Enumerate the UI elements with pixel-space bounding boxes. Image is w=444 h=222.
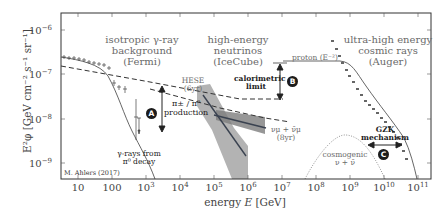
pi0-decay-label: γ-rays fromπ⁰ decay	[114, 150, 164, 167]
x-tick-label: 106	[239, 181, 256, 193]
y-tick-label: 10−9	[29, 157, 52, 169]
x-axis-label: energy E [GeV]	[180, 196, 310, 208]
badge-c: C	[378, 149, 389, 160]
production-label: π± / π⁰production	[164, 100, 208, 118]
x-tick-label: 109	[341, 181, 358, 193]
auger-region-label: ultra-high energycosmic rays(Auger)	[338, 34, 438, 68]
x-tick-label: 107	[273, 181, 290, 193]
y-tick-label: 10−6	[29, 24, 52, 36]
y-axis-label: E²φ [GeV cm⁻² s⁻¹ sr⁻¹]	[21, 16, 33, 166]
icecube-region-label: high-energyneutrinos(IceCube)	[198, 34, 278, 68]
x-tick-label: 1010	[373, 181, 395, 193]
fermi-data-points	[62, 55, 141, 140]
numu-label: νμ + ν̄μ(8yr)	[268, 126, 304, 143]
cosmogenic-label: cosmogenicν + ν̄	[320, 151, 370, 168]
x-tick-label: 10	[72, 181, 85, 193]
gzk-arrow	[368, 142, 402, 148]
badge-a: A	[146, 108, 157, 119]
x-tick-label: 1011	[407, 181, 429, 193]
x-tick-label: 105	[205, 181, 222, 193]
y-tick-label: 10−7	[29, 68, 52, 80]
proton-label: proton (E⁻²)	[290, 54, 340, 62]
x-tick-label: 103	[137, 181, 154, 193]
y-tick-label: 10−8	[29, 113, 52, 125]
fermi-region-label: isotropic γ-raybackground(Fermi)	[92, 34, 192, 68]
badge-b: B	[287, 76, 298, 87]
author-credit: M. Ahlers (2017)	[64, 169, 120, 177]
calorimetric-label: calorimetriclimit	[234, 75, 278, 92]
x-tick-label: 108	[307, 181, 324, 193]
x-tick-label: 100	[102, 181, 121, 193]
hese-label: HESE(6yr)	[176, 77, 210, 94]
gzk-label: GZKmechanism	[360, 126, 410, 143]
x-tick-label: 104	[171, 181, 188, 193]
